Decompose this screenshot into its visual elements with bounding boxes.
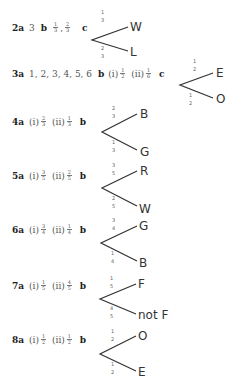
svg-text:2: 2 [112, 195, 115, 201]
tree-2: 13 23 W L [92, 9, 142, 59]
tree-5: 35 25 R W [102, 162, 151, 216]
svg-text:R: R [140, 164, 148, 178]
svg-text:2: 2 [193, 66, 196, 72]
svg-text:1: 1 [111, 361, 114, 367]
svg-text:W: W [130, 20, 142, 34]
svg-text:3: 3 [112, 162, 115, 168]
svg-text:5: 5 [112, 170, 115, 176]
svg-text:1: 1 [101, 9, 104, 15]
tree-8: 12 12 O E [100, 328, 147, 379]
svg-text:1: 1 [111, 250, 114, 256]
svg-text:not F: not F [138, 308, 168, 322]
svg-text:W: W [139, 202, 151, 216]
svg-text:G: G [139, 219, 148, 233]
svg-text:3: 3 [112, 113, 115, 119]
svg-text:E: E [216, 66, 224, 80]
svg-text:2: 2 [111, 336, 114, 342]
svg-text:L: L [130, 45, 137, 59]
tree-diagrams: 13 23 W L 12 12 E O 23 13 B G 35 25 R W … [0, 0, 238, 392]
svg-text:O: O [216, 92, 225, 106]
svg-text:1: 1 [112, 139, 115, 145]
svg-text:5: 5 [112, 203, 115, 209]
svg-text:1: 1 [189, 92, 192, 98]
svg-text:E: E [138, 365, 146, 379]
svg-text:1: 1 [110, 275, 113, 281]
svg-text:4: 4 [111, 258, 114, 264]
svg-text:G: G [140, 145, 149, 159]
svg-text:O: O [138, 329, 147, 343]
svg-text:2: 2 [101, 45, 104, 51]
tree-7: 15 45 F not F [100, 275, 168, 322]
svg-text:5: 5 [110, 283, 113, 289]
svg-text:B: B [140, 107, 148, 121]
svg-text:2: 2 [111, 369, 114, 375]
svg-text:1: 1 [111, 328, 114, 334]
svg-text:3: 3 [112, 217, 115, 223]
svg-text:2: 2 [189, 100, 192, 106]
svg-text:4: 4 [110, 305, 113, 311]
svg-text:F: F [138, 277, 145, 291]
svg-text:3: 3 [101, 53, 104, 59]
svg-text:B: B [139, 256, 147, 270]
svg-text:3: 3 [112, 147, 115, 153]
svg-text:5: 5 [110, 313, 113, 319]
tree-3: 12 12 E O [180, 58, 225, 106]
svg-text:4: 4 [112, 225, 115, 231]
tree-4: 23 13 B G [102, 105, 149, 159]
svg-text:3: 3 [101, 17, 104, 23]
svg-text:2: 2 [112, 105, 115, 111]
tree-6: 34 14 G B [101, 217, 148, 270]
svg-text:1: 1 [193, 58, 196, 64]
